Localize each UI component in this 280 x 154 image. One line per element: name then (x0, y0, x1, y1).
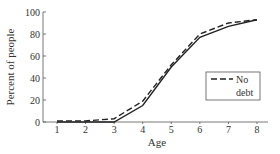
x-tick-label: 2 (83, 124, 88, 135)
y-tick-label: 20 (30, 95, 40, 106)
legend-label-line1: No (236, 74, 248, 85)
series-solid-line (57, 20, 257, 122)
y-axis: 020406080100 (25, 7, 46, 128)
x-axis: 12345678 (43, 122, 268, 135)
y-tick-label: 60 (30, 51, 40, 62)
y-tick-label: 40 (30, 73, 40, 84)
line-chart: 020406080100 12345678 Percent of people … (0, 0, 280, 154)
y-tick-label: 100 (25, 7, 40, 18)
x-axis-label: Age (148, 136, 166, 148)
x-tick-label: 8 (255, 124, 260, 135)
x-tick-label: 7 (226, 124, 231, 135)
y-tick-label: 80 (30, 29, 40, 40)
series-no-debt-line (57, 20, 257, 121)
y-tick-label: 0 (35, 117, 40, 128)
x-tick-label: 6 (197, 124, 202, 135)
x-tick-label: 5 (169, 124, 174, 135)
y-axis-label: Percent of people (4, 28, 16, 105)
x-tick-label: 4 (140, 124, 145, 135)
legend-label-line2: debt (236, 87, 253, 98)
x-tick-label: 1 (55, 124, 60, 135)
legend: No debt (206, 72, 260, 100)
series-lines (57, 20, 257, 122)
x-tick-label: 3 (112, 124, 117, 135)
